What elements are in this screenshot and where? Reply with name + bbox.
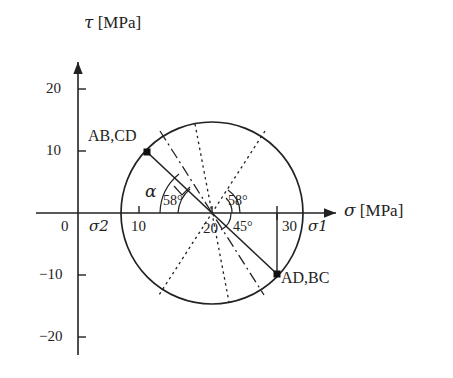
angle-label-45: 45°	[233, 220, 253, 234]
x-axis-label: σ [MPa]	[344, 202, 403, 219]
y-tick-label-20: 20	[46, 81, 61, 96]
origin-label: 0	[61, 219, 69, 234]
angle-label-alpha: α	[145, 183, 156, 200]
angle-label-58-left: 58°	[163, 194, 183, 208]
y-axis-arrowhead	[73, 62, 82, 74]
y-axis-label: τ [MPa]	[84, 14, 141, 31]
y-axis-symbol: τ	[84, 12, 93, 32]
x-tick-label-30: 30	[282, 219, 297, 234]
x-tick-label-20: 20	[203, 221, 218, 236]
x-tick-label-10: 10	[131, 219, 146, 234]
y-axis-unit: [MPa]	[98, 13, 141, 32]
point-label-ab-cd: AB,CD	[88, 128, 136, 144]
x-axis-unit: [MPa]	[360, 201, 403, 220]
y-tick-label-minus-10: −10	[39, 267, 62, 282]
point-label-ad-bc: AD,BC	[281, 270, 329, 286]
mohr-circle-figure	[0, 0, 453, 378]
point-marker-ab-cd	[144, 149, 151, 156]
angle-label-58-right: 58°	[228, 194, 248, 208]
sigma1-label: σ1	[308, 219, 328, 234]
point-marker-ad-bc	[274, 271, 281, 278]
x-axis-symbol: σ	[344, 200, 356, 220]
y-tick-label-10: 10	[46, 143, 61, 158]
angle-arc-lower	[221, 213, 231, 230]
sigma2-label: σ2	[89, 219, 109, 234]
y-tick-label-minus-20: −20	[39, 329, 62, 344]
